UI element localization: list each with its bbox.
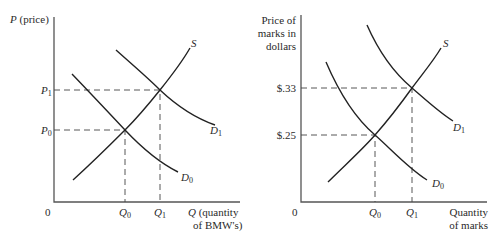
right-p1-q1-guides bbox=[301, 88, 412, 202]
left-supply-label: S bbox=[191, 37, 197, 49]
right-x-axis-label-line1: Quantity bbox=[450, 206, 489, 218]
right-demand-curve-d1 bbox=[367, 25, 453, 121]
right-chart: Price of marks in dollars $.33 $.25 0 Q0… bbox=[258, 14, 489, 231]
left-x-axis-label-line1: Q (quantity bbox=[188, 206, 239, 219]
right-y-axis-label-line1: Price of bbox=[261, 14, 296, 26]
left-demand-curve-d0 bbox=[72, 74, 178, 172]
left-demand-curve-d1 bbox=[116, 50, 215, 125]
left-supply-curve bbox=[73, 48, 190, 180]
left-q0-label: Q0 bbox=[119, 206, 131, 220]
left-x-axis-label-line2: of BMW's) bbox=[193, 219, 243, 232]
right-p0-label: $.25 bbox=[277, 129, 297, 141]
left-p1-label: P1 bbox=[40, 84, 52, 98]
right-p0-q0-guides bbox=[301, 135, 375, 202]
right-supply-curve bbox=[328, 48, 441, 182]
right-origin-label: 0 bbox=[292, 206, 298, 218]
right-axes bbox=[301, 15, 487, 202]
right-q0-label: Q0 bbox=[369, 206, 381, 220]
right-y-axis-label-line2: marks in bbox=[258, 27, 297, 39]
left-chart: P (price) P1 P0 0 Q0 Q1 Q (quantity of B… bbox=[9, 13, 243, 232]
right-p1-label: $.33 bbox=[277, 82, 297, 94]
left-axes bbox=[54, 17, 240, 202]
left-origin-label: 0 bbox=[45, 206, 51, 218]
right-y-axis-label-line3: dollars bbox=[266, 40, 296, 52]
right-d1-label: D1 bbox=[452, 121, 465, 135]
left-p1-q1-guides bbox=[54, 90, 160, 202]
left-p0-label: P0 bbox=[40, 124, 52, 138]
right-q1-label: Q1 bbox=[406, 206, 418, 220]
right-supply-label: S bbox=[443, 37, 449, 49]
diagram-canvas: P (price) P1 P0 0 Q0 Q1 Q (quantity of B… bbox=[0, 0, 499, 243]
left-d1-label: D1 bbox=[209, 124, 222, 138]
right-x-axis-label-line2: of marks bbox=[449, 219, 488, 231]
right-d0-label: D0 bbox=[431, 177, 444, 191]
left-d0-label: D0 bbox=[180, 171, 193, 185]
left-y-axis-label: P (price) bbox=[9, 13, 49, 26]
left-q1-label: Q1 bbox=[154, 206, 166, 220]
